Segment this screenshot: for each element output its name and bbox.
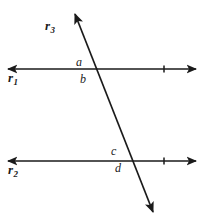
line-label-r3: r3	[45, 19, 55, 32]
line-label-r2-base: r	[8, 162, 13, 177]
angle-label-b: b	[80, 73, 86, 85]
line-label-r3-subscript: 3	[51, 25, 56, 35]
line-label-r3-base: r	[45, 18, 50, 33]
angle-label-a: a	[76, 56, 82, 68]
figure-canvas	[0, 0, 203, 223]
angle-label-d: d	[115, 162, 121, 174]
geometry-figure: r3 r1 r2 a b c d	[0, 0, 203, 223]
line-label-r1: r1	[8, 71, 18, 84]
line-label-r1-subscript: 1	[14, 77, 19, 87]
line-r3-transversal	[75, 14, 153, 212]
line-label-r2: r2	[8, 163, 18, 176]
angle-label-c: c	[111, 145, 116, 157]
line-label-r1-base: r	[8, 70, 13, 85]
line-label-r2-subscript: 2	[14, 169, 19, 179]
